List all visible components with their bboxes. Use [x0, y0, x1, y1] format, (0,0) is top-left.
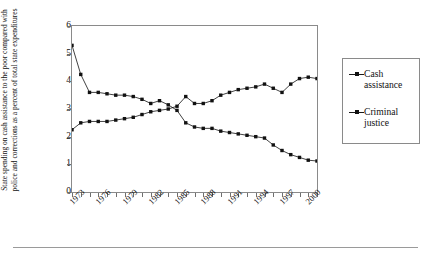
data-point-marker [307, 75, 310, 78]
data-point-marker [123, 117, 126, 120]
x-axis-tick-mark [265, 193, 266, 197]
data-lines [72, 26, 317, 192]
data-point-marker [184, 95, 187, 98]
data-point-marker [263, 136, 266, 139]
x-axis-tick-mark [177, 193, 178, 197]
data-point-marker [123, 93, 126, 96]
x-axis-tick-mark [107, 193, 108, 197]
data-point-marker [219, 93, 222, 96]
x-axis-tick-mark [98, 193, 99, 197]
legend-label: Cash assistance [364, 68, 419, 91]
x-axis-tick-mark [125, 193, 126, 197]
x-axis-tick-mark [230, 193, 231, 197]
data-point-marker [193, 102, 196, 105]
x-axis-tick-mark [81, 193, 82, 197]
data-point-marker [307, 158, 310, 161]
data-point-marker [114, 118, 117, 121]
data-point-marker [202, 102, 205, 105]
data-point-marker [245, 87, 248, 90]
x-axis-tick-mark [195, 193, 196, 197]
x-axis-tick-mark [300, 193, 301, 197]
data-point-marker [228, 131, 231, 134]
series-criminal-justice [72, 75, 317, 131]
data-point-marker [298, 156, 301, 159]
x-axis-tick-mark [273, 193, 274, 197]
x-axis-tick-mark [90, 193, 91, 197]
x-axis-tick-mark [142, 193, 143, 197]
x-axis-tick-mark [238, 193, 239, 197]
data-point-marker [88, 120, 91, 123]
data-point-marker [97, 91, 100, 94]
data-point-marker [175, 105, 178, 108]
data-point-marker [210, 127, 213, 130]
data-point-marker [114, 93, 117, 96]
data-point-marker [289, 82, 292, 85]
data-point-marker [237, 132, 240, 135]
data-point-marker [97, 120, 100, 123]
legend-label: Criminal justice [364, 106, 419, 129]
data-point-marker [79, 73, 82, 76]
data-point-marker [289, 153, 292, 156]
x-axis-tick-mark [317, 193, 318, 197]
data-point-marker [237, 88, 240, 91]
x-axis-tick-mark [203, 193, 204, 197]
data-point-marker [79, 121, 82, 124]
x-axis-tick-mark [247, 193, 248, 197]
x-axis-tick-mark [212, 193, 213, 197]
chart-figure: State spending on cash assistance to the… [0, 0, 431, 257]
data-point-marker [280, 91, 283, 94]
x-axis-tick-mark [186, 193, 187, 197]
x-axis-tick-mark [160, 193, 161, 197]
data-point-marker [263, 82, 266, 85]
chart-legend: Cash assistance Criminal justice [342, 58, 420, 144]
data-point-marker [158, 109, 161, 112]
data-point-marker [140, 98, 143, 101]
x-axis-tick-mark [168, 193, 169, 197]
data-point-marker [272, 87, 275, 90]
data-point-marker [184, 121, 187, 124]
data-point-marker [175, 109, 178, 112]
x-axis-tick-marks [71, 193, 319, 198]
data-point-marker [72, 128, 74, 131]
y-axis-title: State spending on cash assistance to the… [0, 0, 42, 200]
data-point-marker [149, 102, 152, 105]
plot-area [71, 25, 318, 193]
data-point-marker [149, 110, 152, 113]
data-point-marker [105, 120, 108, 123]
data-point-marker [228, 91, 231, 94]
data-point-marker [219, 129, 222, 132]
x-axis-tick-mark [72, 193, 73, 197]
data-point-marker [298, 77, 301, 80]
data-point-marker [105, 92, 108, 95]
x-axis-tick-mark [308, 193, 309, 197]
legend-marker-icon [349, 69, 364, 80]
data-point-marker [72, 44, 74, 47]
data-point-marker [88, 91, 91, 94]
data-point-marker [315, 77, 317, 80]
data-point-marker [132, 116, 135, 119]
footer-divider [13, 247, 418, 248]
legend-item-cash-assistance[interactable]: Cash assistance [349, 68, 419, 91]
data-point-marker [140, 113, 143, 116]
data-point-marker [202, 127, 205, 130]
x-axis-tick-mark [291, 193, 292, 197]
data-point-marker [254, 85, 257, 88]
data-point-marker [132, 95, 135, 98]
data-point-marker [245, 134, 248, 137]
x-axis-tick-mark [133, 193, 134, 197]
data-point-marker [272, 143, 275, 146]
data-point-marker [158, 99, 161, 102]
legend-item-criminal-justice[interactable]: Criminal justice [349, 106, 419, 129]
y-axis-title-text: State spending on cash assistance to the… [0, 0, 19, 200]
data-point-marker [280, 149, 283, 152]
data-point-marker [210, 99, 213, 102]
data-point-marker [167, 107, 170, 110]
x-axis-tick-mark [256, 193, 257, 197]
legend-marker-icon [349, 107, 364, 118]
x-axis-tick-mark [116, 193, 117, 197]
x-axis-tick-mark [282, 193, 283, 197]
data-point-marker [193, 125, 196, 128]
x-axis-tick-mark [221, 193, 222, 197]
data-point-marker [167, 103, 170, 106]
data-point-marker [254, 135, 257, 138]
